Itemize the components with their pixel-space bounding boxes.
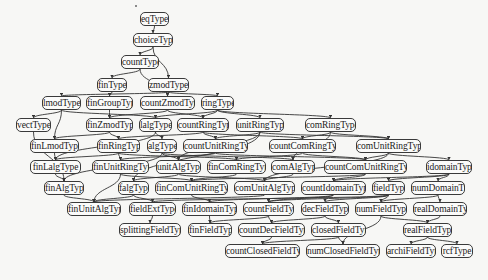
edge-countFieldType-to-countDecFieldType bbox=[269, 216, 272, 223]
node-count-ring-type: countRingType bbox=[177, 118, 229, 132]
node-real-field-type: realFieldType bbox=[403, 223, 452, 237]
node-field-ext-type: fieldExtType bbox=[129, 202, 176, 216]
edge-countFieldType-to-finFieldType bbox=[210, 216, 269, 223]
edge-lmodType-to-vectType bbox=[34, 110, 62, 118]
node-num-closed-field-type: numClosedFieldType bbox=[306, 244, 380, 258]
node-count-type: countType bbox=[121, 55, 159, 69]
node-ring-type: ringType bbox=[201, 96, 234, 110]
edge-falgType-to-fieldExtType bbox=[134, 195, 153, 202]
node-fin-com-ring-type: finComRingType bbox=[207, 160, 266, 174]
node-count-zmod-type: countZmodType bbox=[140, 96, 195, 110]
edge-closedFieldType-to-numClosedFieldType bbox=[339, 237, 344, 244]
node-com-unit-ring-type: comUnitRingType bbox=[356, 139, 421, 153]
node-fin-lmod-type: finLmodType bbox=[30, 139, 79, 153]
node-fin-ring-type: finRingType bbox=[97, 139, 140, 153]
edge-unitRingType-to-comUnitRingType bbox=[260, 132, 389, 139]
edge-numDomainType-to-numFieldType bbox=[381, 195, 438, 202]
node-alg-type: algType bbox=[147, 139, 177, 153]
edge-finIdomainType-to-finFieldType bbox=[210, 216, 211, 223]
node-num-domain-type: numDomainType bbox=[411, 181, 465, 195]
edge-countRingType-to-finRingType bbox=[119, 132, 204, 139]
edge-decFieldType-to-countDecFieldType bbox=[272, 216, 326, 223]
node-eq-type: eqType bbox=[140, 12, 169, 26]
edge-choiceType-to-countType bbox=[140, 47, 153, 55]
edge-realFieldType-to-archiFieldType bbox=[411, 237, 428, 244]
node-dec-field-type: decFieldType bbox=[301, 202, 349, 216]
edge-finZmodType-to-finRingType bbox=[110, 132, 119, 139]
edge-lmodType-to-finLmodType bbox=[55, 110, 62, 139]
node-fin-com-unit-ring-type: finComUnitRingType bbox=[155, 181, 228, 195]
edge-countType-to-finType bbox=[112, 69, 140, 78]
edge-unitAlgType-to-falgType bbox=[134, 174, 179, 181]
node-com-ring-type: comRingType bbox=[305, 118, 356, 132]
node-vect-type: vectType bbox=[16, 118, 51, 132]
edge-numDomainType-to-realDomainType bbox=[438, 195, 440, 202]
stray-mark bbox=[135, 5, 137, 7]
edge-closedFieldType-to-countClosedFieldType bbox=[263, 237, 339, 244]
edge-numFieldType-to-realFieldType bbox=[381, 216, 428, 223]
node-num-field-type: numFieldType bbox=[355, 202, 407, 216]
edge-fieldExtType-to-splittingFieldType bbox=[150, 216, 153, 223]
edge-decFieldType-to-closedFieldType bbox=[325, 216, 339, 223]
node-count-com-unit-ring-type: countComUnitRingType bbox=[324, 160, 407, 174]
node-fin-unit-ring-type: finUnitRingType bbox=[92, 160, 149, 174]
edge-finRingType-to-finUnitRingType bbox=[119, 153, 121, 160]
node-com-alg-type: comAlgType bbox=[271, 160, 315, 174]
node-unit-alg-type: unitAlgType bbox=[156, 160, 201, 174]
node-lmod-type: lmodType bbox=[42, 96, 81, 110]
node-count-field-type: countFieldType bbox=[243, 202, 294, 216]
edge-comUnitAlgType-to-finUnitAlgType bbox=[94, 195, 265, 202]
node-fin-field-type: finFieldType bbox=[188, 223, 232, 237]
node-splitting-field-type: splittingFieldType bbox=[119, 223, 181, 237]
node-zmod-type: zmodType bbox=[148, 78, 189, 92]
node-choice-type: choiceType bbox=[133, 33, 173, 47]
node-fin-type: finType bbox=[97, 78, 127, 92]
edge-realDomainType-to-realFieldType bbox=[428, 216, 441, 223]
node-rcf-type: rcfType bbox=[441, 244, 473, 258]
node-closed-field-type: closedFieldType bbox=[311, 223, 366, 237]
node-count-unit-ring-type: countUnitRingType bbox=[183, 139, 248, 153]
node-fin-idomain-type: finIdomainType bbox=[182, 202, 237, 216]
node-count-idomain-type: countIdomainType bbox=[301, 181, 366, 195]
node-com-unit-alg-type: comUnitAlgType bbox=[234, 181, 295, 195]
edge-realFieldType-to-rcfType bbox=[428, 237, 458, 244]
node-fin-group-type: finGroupType bbox=[86, 96, 133, 110]
edge-finLmodType-to-finLalgType bbox=[55, 153, 56, 160]
edge-finZmodType-to-finLmodType bbox=[55, 132, 110, 139]
node-lalg-type: lalgType bbox=[139, 118, 172, 132]
edge-finAlgType-to-finUnitAlgType bbox=[64, 195, 94, 202]
node-fin-unit-alg-type: finUnitAlgType bbox=[67, 202, 121, 216]
node-field-type: fieldType bbox=[372, 181, 405, 195]
node-real-domain-type: realDomainType bbox=[413, 202, 467, 216]
node-count-com-ring-type: countComRingType bbox=[269, 139, 336, 153]
node-count-dec-field-type: countDecFieldType bbox=[238, 223, 305, 237]
node-fin-zmod-type: finZmodType bbox=[86, 118, 133, 132]
node-fin-alg-type: finAlgType bbox=[44, 181, 84, 195]
node-idomain-type: idomainType bbox=[426, 160, 472, 174]
edge-finLalgType-to-finAlgType bbox=[56, 174, 65, 181]
edge-comUnitRingType-to-idomainType bbox=[389, 153, 450, 160]
node-falg-type: falgType bbox=[118, 181, 149, 195]
edge-finRingType-to-finLalgType bbox=[56, 153, 119, 160]
node-archi-field-type: archiFieldType bbox=[386, 244, 436, 258]
node-unit-ring-type: unitRingType bbox=[236, 118, 284, 132]
type-hierarchy-diagram: eqTypechoiceTypecountTypefinTypezmodType… bbox=[0, 0, 488, 280]
edge-unitAlgType-to-comUnitAlgType bbox=[179, 174, 265, 181]
edge-eqType-to-choiceType bbox=[153, 26, 155, 33]
node-fin-lalg-type: finLalgType bbox=[30, 160, 81, 174]
node-count-closed-field-type: countClosedFieldType bbox=[225, 244, 300, 258]
